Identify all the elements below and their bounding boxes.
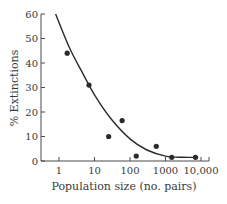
data-point <box>65 51 70 56</box>
y-tick-label: 40 <box>25 58 38 69</box>
y-tick-label: 30 <box>25 82 38 93</box>
y-tick-label: 0 <box>32 156 38 167</box>
data-point <box>120 118 125 123</box>
data-point <box>193 155 198 160</box>
x-axis-title: Population size (no. pairs) <box>52 180 197 193</box>
data-point <box>106 134 111 139</box>
y-tick-label: 20 <box>25 107 38 118</box>
x-tick-label: 10,000 <box>184 165 219 176</box>
fitted-curve-path <box>56 14 198 157</box>
y-tick-label: 10 <box>25 131 38 142</box>
y-tick-label: 60 <box>25 9 38 20</box>
data-point <box>134 154 139 159</box>
x-tick-label: 100 <box>120 165 139 176</box>
axes: 0102030405060110100100010,000 <box>25 9 218 177</box>
x-tick-label: 10 <box>88 165 101 176</box>
x-tick-label: 1000 <box>153 165 178 176</box>
fitted-curve <box>56 14 198 157</box>
chart-container: 0102030405060110100100010,000 Population… <box>0 0 227 204</box>
y-tick-label: 50 <box>25 33 38 44</box>
x-tick-label: 1 <box>56 165 62 176</box>
data-point <box>154 144 159 149</box>
y-axis-title: % Extinctions <box>8 49 21 126</box>
data-point <box>169 155 174 160</box>
data-points <box>65 51 199 160</box>
data-point <box>86 82 91 87</box>
scatter-plot: 0102030405060110100100010,000 Population… <box>0 0 227 204</box>
